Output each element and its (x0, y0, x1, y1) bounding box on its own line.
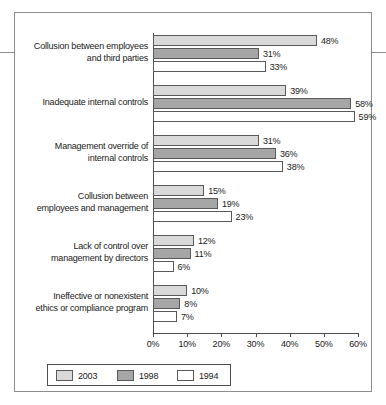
bar-value-label: 19% (222, 199, 239, 209)
category-label: Ineffective or nonexistentethics or comp… (0, 291, 148, 314)
legend-item-2003[interactable]: 2003 (56, 369, 97, 382)
category-label: Inadequate internal controls (0, 97, 148, 109)
bar-value-label: 12% (198, 236, 215, 246)
legend-label: 1994 (199, 371, 218, 381)
legend-swatch-icon (177, 370, 194, 381)
bar-value-label: 11% (195, 249, 212, 259)
category-label: Collusion betweenemployees and managemen… (0, 191, 148, 214)
plot-area: 0%10%20%30%40%50%60%48%31%33%Collusion b… (15, 13, 373, 393)
x-axis-tick (153, 333, 154, 337)
bar-1994-5 (153, 311, 177, 322)
bar-2003-5 (153, 285, 187, 296)
bar-value-label: 59% (359, 112, 376, 122)
bar-1994-3 (153, 211, 232, 222)
legend-swatch-icon (56, 370, 73, 381)
chart-legend: 200319981994 (47, 364, 231, 386)
chart-frame: 0%10%20%30%40%50%60%48%31%33%Collusion b… (14, 12, 372, 392)
bar-value-label: 6% (178, 262, 191, 272)
x-axis-tick (358, 333, 359, 337)
bar-1994-1 (153, 111, 355, 122)
legend-swatch-icon (117, 370, 134, 381)
category-label: Collusion between employeesand third par… (0, 41, 148, 64)
bar-value-label: 31% (263, 49, 280, 59)
bar-value-label: 7% (181, 312, 194, 322)
bar-1998-2 (153, 148, 276, 159)
bar-1998-5 (153, 298, 180, 309)
bar-1998-4 (153, 248, 191, 259)
x-axis-tick (290, 333, 291, 337)
x-axis-tick (187, 333, 188, 337)
bar-value-label: 15% (208, 186, 225, 196)
x-axis-tick (256, 333, 257, 337)
bar-1998-3 (153, 198, 218, 209)
bar-1998-0 (153, 48, 259, 59)
bar-value-label: 23% (236, 212, 253, 222)
bar-value-label: 39% (290, 86, 307, 96)
bar-1994-4 (153, 261, 174, 272)
bar-value-label: 48% (321, 36, 338, 46)
bar-value-label: 8% (184, 299, 197, 309)
bar-2003-0 (153, 35, 317, 46)
bar-1994-0 (153, 61, 266, 72)
legend-item-1998[interactable]: 1998 (117, 369, 158, 382)
x-axis-tick (221, 333, 222, 337)
bar-2003-1 (153, 85, 286, 96)
bar-value-label: 33% (270, 62, 287, 72)
bar-value-label: 36% (280, 149, 297, 159)
category-label: Management override ofinternal controls (0, 141, 148, 164)
bar-1994-2 (153, 161, 283, 172)
bar-value-label: 58% (355, 99, 372, 109)
bar-value-label: 10% (191, 286, 208, 296)
bar-1998-1 (153, 98, 351, 109)
x-axis-tick (324, 333, 325, 337)
bar-2003-4 (153, 235, 194, 246)
legend-label: 2003 (78, 371, 97, 381)
legend-item-1994[interactable]: 1994 (177, 369, 218, 382)
x-axis-tick-label: 60% (338, 339, 378, 349)
bar-value-label: 31% (263, 136, 280, 146)
legend-label: 1998 (139, 371, 158, 381)
bar-2003-2 (153, 135, 259, 146)
bar-value-label: 38% (287, 162, 304, 172)
category-label: Lack of control overmanagement by direct… (0, 241, 148, 264)
bar-2003-3 (153, 185, 204, 196)
